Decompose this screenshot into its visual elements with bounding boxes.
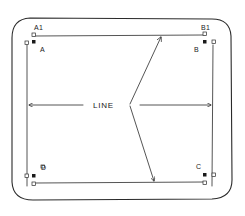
- diagonal-arrow-down: [130, 106, 154, 181]
- marker-d-filled-square: [32, 174, 36, 178]
- marker-right-open-square: [212, 40, 216, 44]
- label-line: LINE: [93, 101, 114, 110]
- marker-right-bottom-open-square: [212, 173, 216, 177]
- label-d: D: [41, 164, 46, 171]
- marker-a1-open-square: [32, 33, 36, 37]
- marker-left-bottom-open-square: [25, 174, 29, 178]
- top-edge-line: [35, 35, 204, 36]
- label-b: B: [194, 46, 199, 53]
- bottom-edge-line: [36, 182, 206, 183]
- marker-bottom-left-open-square: [32, 182, 36, 186]
- label-c: C: [196, 163, 201, 170]
- marker-c-filled-square: [203, 173, 207, 177]
- outer-frame: [12, 18, 232, 200]
- diagram-canvas: A1 A B1 B D C LINE: [0, 0, 245, 216]
- marker-left-open-square: [25, 41, 29, 45]
- label-a1: A1: [34, 24, 43, 31]
- marker-a-filled-square: [32, 40, 36, 44]
- marker-b-filled-square: [203, 40, 207, 44]
- right-edge-line: [212, 45, 213, 186]
- marker-bottom-right-open-square: [203, 181, 207, 185]
- label-a: A: [40, 46, 45, 53]
- label-b1: B1: [201, 24, 210, 31]
- marker-b1-open-square: [203, 32, 207, 36]
- diagonal-arrow-up: [130, 37, 161, 104]
